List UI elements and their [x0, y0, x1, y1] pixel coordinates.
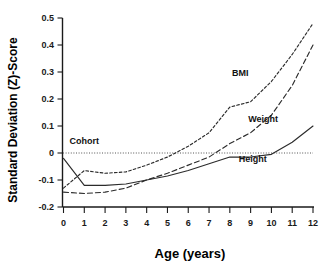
- x-tick-label: 8: [227, 218, 232, 228]
- x-tick-label: 4: [144, 218, 149, 228]
- y-tick-label: 0.3: [41, 67, 54, 77]
- x-tick-label: 12: [308, 218, 318, 228]
- series-line-height: [64, 126, 314, 185]
- annotation-height: Height: [239, 154, 267, 164]
- series-group: [64, 23, 314, 193]
- x-tick-label: 10: [266, 218, 276, 228]
- series-annotations: CohortBMIWeightHeight: [70, 68, 278, 164]
- annotation-bmi: BMI: [232, 68, 249, 78]
- annotation-cohort: Cohort: [70, 136, 100, 146]
- y-tick-label: -0.1: [38, 175, 54, 185]
- y-tick-label: -0.2: [38, 202, 54, 212]
- chart-figure: Standard Deviation (Z)-Score Age (years)…: [0, 0, 330, 268]
- annotation-weight: Weight: [248, 114, 278, 124]
- series-line-bmi: [64, 23, 314, 188]
- line-chart-canvas: Standard Deviation (Z)-Score Age (years)…: [0, 0, 330, 268]
- y-tick-label: 0.2: [41, 94, 54, 104]
- y-tick-label: 0: [49, 148, 54, 158]
- x-tick-label: 1: [82, 218, 87, 228]
- x-axis-title: Age (years): [155, 246, 226, 261]
- x-tick-label: 3: [123, 218, 128, 228]
- y-tick-label: 0.5: [41, 13, 54, 23]
- y-tick-label: 0.1: [41, 121, 54, 131]
- x-tick-label: 9: [248, 218, 253, 228]
- y-axis-ticks: 0.50.40.30.20.10-0.1-0.2: [38, 13, 62, 212]
- x-tick-label: 0: [61, 218, 66, 228]
- x-tick-label: 2: [103, 218, 108, 228]
- x-tick-label: 5: [165, 218, 170, 228]
- x-tick-label: 6: [186, 218, 191, 228]
- x-tick-label: 11: [287, 218, 297, 228]
- y-axis-title: Standard Deviation (Z)-Score: [6, 37, 20, 203]
- x-tick-label: 7: [207, 218, 212, 228]
- y-tick-label: 0.4: [41, 40, 54, 50]
- x-axis-ticks: 0123456789101112: [61, 207, 318, 228]
